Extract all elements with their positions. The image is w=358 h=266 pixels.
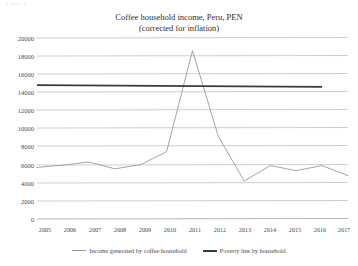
x-tick-label: 2011 (189, 226, 201, 233)
x-tick-label: 2014 (264, 226, 276, 233)
x-tick-label: 2006 (64, 226, 76, 233)
x-tick-label: 2013 (239, 226, 251, 233)
y-tick-label: 0 (31, 216, 34, 223)
cut-header-text: Figure 3 (6, 1, 26, 6)
y-tick-label: 20000 (18, 35, 34, 42)
legend-label-income: Income generated by coffee household (89, 247, 186, 254)
y-tick-label: 12000 (18, 107, 34, 114)
x-tick-label: 2015 (289, 226, 301, 233)
chart-figure (0, 0, 358, 266)
series-income-line (37, 51, 348, 181)
y-tick-label: 8000 (21, 143, 34, 150)
y-tick-label: 6000 (21, 162, 34, 169)
series-poverty-line (37, 85, 322, 87)
legend-swatch-income-icon (72, 250, 86, 251)
x-tick-label: 2005 (39, 226, 51, 233)
gridlines (37, 38, 348, 220)
x-tick-label: 2016 (314, 226, 326, 233)
chart-title-line2: (corrected for inflation) (0, 23, 358, 34)
y-tick-label: 2000 (21, 198, 34, 205)
x-tick-label: 2007 (89, 226, 101, 233)
chart-legend: Income generated by coffee household Pov… (0, 247, 358, 254)
x-tick-label: 2012 (214, 226, 226, 233)
y-tick-label: 10000 (18, 125, 34, 132)
y-tick-label: 14000 (18, 89, 34, 96)
chart-title: Coffee household income, Peru, PEN (corr… (0, 12, 358, 34)
y-tick-label: 18000 (18, 53, 34, 60)
legend-item-income: Income generated by coffee household (72, 247, 186, 254)
legend-item-poverty: Poverty line by household (203, 247, 286, 254)
x-tick-label: 2009 (139, 226, 151, 233)
x-tick-label: 2010 (164, 226, 176, 233)
legend-label-poverty: Poverty line by household (220, 247, 286, 254)
y-tick-label: 4000 (21, 180, 34, 187)
chart-title-line1: Coffee household income, Peru, PEN (115, 12, 242, 22)
x-tick-label: 2017 (338, 226, 350, 233)
y-tick-label: 16000 (18, 71, 34, 78)
legend-swatch-poverty-icon (203, 250, 217, 252)
x-tick-label: 2008 (114, 226, 126, 233)
